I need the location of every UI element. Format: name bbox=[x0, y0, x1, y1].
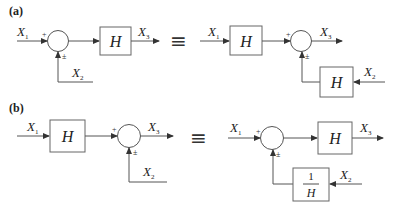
panel-a-label: (a) bbox=[9, 4, 23, 18]
pm-sign: ± bbox=[276, 150, 281, 159]
panel-b-right-diagram: X1 + ± H X3 1 H X2 bbox=[228, 120, 383, 201]
block-h-label: H bbox=[61, 128, 75, 145]
input-x2-label: X2 bbox=[363, 64, 376, 81]
block-h-forward-label: H bbox=[239, 33, 253, 50]
output-x3-label: X3 bbox=[359, 120, 372, 137]
summing-junction bbox=[261, 127, 284, 150]
plus-sign: + bbox=[256, 127, 261, 136]
panel-a-left-diagram: X1 + ± X2 H X3 bbox=[16, 24, 159, 82]
plus-sign: + bbox=[286, 30, 291, 39]
panel-b-left-diagram: X1 H + ± X3 X2 bbox=[17, 119, 173, 182]
block-h-forward-label: H bbox=[328, 130, 342, 147]
input-x1-label: X1 bbox=[207, 24, 220, 41]
summing-junction bbox=[291, 31, 312, 52]
inverse-h-denominator: H bbox=[306, 186, 317, 200]
input-x1-label: X1 bbox=[26, 119, 39, 136]
plus-sign: + bbox=[42, 30, 47, 39]
input-x2-label: X2 bbox=[71, 65, 84, 82]
panel-a: (a) X1 + ± X2 H X3 ≡ X1 H bbox=[9, 4, 385, 97]
panel-b-label: (b) bbox=[9, 101, 24, 115]
pm-sign: ± bbox=[305, 52, 310, 61]
input-x2-label: X2 bbox=[339, 167, 352, 184]
input-x2-label: X2 bbox=[142, 164, 155, 181]
pm-sign: ± bbox=[62, 52, 67, 61]
output-x3-label: X3 bbox=[319, 24, 332, 41]
block-diagram-figure: (a) X1 + ± X2 H X3 ≡ X1 H bbox=[0, 0, 402, 206]
inverse-h-numerator: 1 bbox=[308, 170, 314, 182]
equivalence-symbol: ≡ bbox=[170, 29, 187, 53]
panel-b: (b) X1 H + ± X3 X2 ≡ X1 + ± H bbox=[9, 101, 383, 201]
equivalence-symbol: ≡ bbox=[190, 126, 207, 150]
input-x1-label: X1 bbox=[229, 120, 242, 137]
block-h-feedback-label: H bbox=[330, 74, 344, 91]
input-x1-label: X1 bbox=[16, 24, 29, 41]
output-x3-label: X3 bbox=[147, 119, 160, 136]
summing-junction bbox=[118, 125, 141, 148]
plus-sign: + bbox=[112, 125, 117, 134]
block-h-label: H bbox=[109, 33, 123, 50]
output-x3-label: X3 bbox=[137, 24, 150, 41]
panel-a-right-diagram: X1 H + ± X3 H X2 bbox=[200, 24, 385, 97]
pm-sign: ± bbox=[133, 148, 138, 157]
summing-junction bbox=[48, 31, 69, 52]
